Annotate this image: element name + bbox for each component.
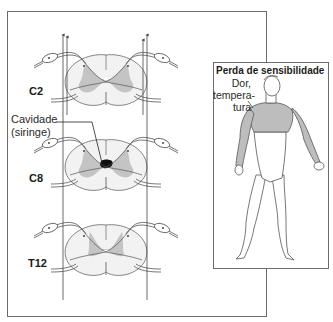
cavity-label: Cavidade (siringe) [11,113,57,139]
pain-label-line2: tempera- [213,89,251,101]
pain-label-line3: tura [213,101,251,113]
cavity-label-line1: Cavidade [11,113,57,126]
pain-temperature-label: Dor, tempera- tura [213,77,251,113]
cavity-label-line2: (siringe) [11,126,57,139]
inset-title: Perda de sensibilidade [216,66,324,76]
diagram-artwork [0,0,333,322]
syringomyelia-diagram: C2 C8 T12 Cavidade (siringe) Perda de se… [0,0,333,322]
pain-label-line1: Dor, [213,77,251,89]
segment-label-t12: T12 [28,258,47,269]
segment-label-c2: C2 [29,86,43,97]
segment-label-c8: C8 [29,173,43,184]
